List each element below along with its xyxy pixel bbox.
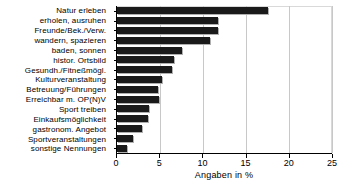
category-label-row: wandern, spazieren xyxy=(0,36,110,46)
bar-row xyxy=(117,6,332,16)
category-label-row: Sport treiben xyxy=(0,105,110,115)
bar xyxy=(117,76,162,83)
bar-row xyxy=(117,114,332,124)
plot-area xyxy=(116,6,332,154)
category-label: Kulturveranstaltung xyxy=(35,75,106,84)
y-axis-tick xyxy=(114,50,117,51)
bar xyxy=(117,145,127,152)
category-label: Einkaufsmöglichkeit xyxy=(33,115,106,124)
x-axis-tick-label: 25 xyxy=(327,158,337,168)
category-label-row: Betreuung/Führungen xyxy=(0,85,110,95)
category-label: Erreichbar m. OP(N)V xyxy=(26,95,106,104)
category-label-row: Kulturveranstaltung xyxy=(0,75,110,85)
category-label-row: baden, sonnen xyxy=(0,45,110,55)
category-label: Natur erleben xyxy=(56,6,106,15)
bar-row xyxy=(117,35,332,45)
bar xyxy=(117,56,174,63)
bar-row xyxy=(117,94,332,104)
bar-row xyxy=(117,133,332,143)
x-axis-tick-label: 20 xyxy=(284,158,294,168)
category-label: baden, sonnen xyxy=(52,46,106,55)
bar xyxy=(117,66,172,73)
bar xyxy=(117,27,218,34)
x-axis-tick-label: 15 xyxy=(241,158,251,168)
bar xyxy=(117,47,182,54)
category-label-column: Natur erlebenerholen, ausruhenFreunde/Be… xyxy=(0,6,110,154)
x-axis-tick-labels: 0510152025 xyxy=(116,158,332,170)
y-axis-tick xyxy=(114,11,117,12)
gridline xyxy=(332,6,333,153)
category-label-row: Freunde/Bek./Verw. xyxy=(0,26,110,36)
y-axis-tick xyxy=(114,79,117,80)
category-label: Sport treiben xyxy=(59,105,106,114)
y-axis-tick xyxy=(114,119,117,120)
category-label: Gesundh./Fitneßmögl. xyxy=(25,66,106,75)
category-label: Betreuung/Führungen xyxy=(26,85,106,94)
category-label-row: Natur erleben xyxy=(0,6,110,16)
bar xyxy=(117,37,210,44)
y-axis-tick xyxy=(114,109,117,110)
category-label-row: Erreichbar m. OP(N)V xyxy=(0,95,110,105)
y-axis-tick xyxy=(114,30,117,31)
category-label: Freunde/Bek./Verw. xyxy=(34,26,106,35)
y-axis-tick xyxy=(114,40,117,41)
y-axis-tick xyxy=(114,99,117,100)
category-label: histor. Ortsbild xyxy=(53,56,106,65)
y-axis-tick xyxy=(114,70,117,71)
y-axis-tick xyxy=(114,60,117,61)
category-label: wandern, spazieren xyxy=(34,36,106,45)
category-label-row: Gesundh./Fitneßmögl. xyxy=(0,65,110,75)
category-label-row: Einkaufsmöglichkeit xyxy=(0,114,110,124)
bar-row xyxy=(117,143,332,153)
x-axis-tick-label: 0 xyxy=(113,158,118,168)
bar xyxy=(117,125,142,132)
category-label-row: sonstige Nennungen xyxy=(0,144,110,154)
bar-row xyxy=(117,55,332,65)
x-axis-tick-label: 10 xyxy=(197,158,207,168)
bar xyxy=(117,86,158,93)
plot-inner xyxy=(117,6,332,153)
category-label: erholen, ausruhen xyxy=(40,16,106,25)
bar-row xyxy=(117,124,332,134)
bar-row xyxy=(117,45,332,55)
category-label-row: erholen, ausruhen xyxy=(0,16,110,26)
bar xyxy=(117,96,159,103)
category-label-row: gastronom. Angebot xyxy=(0,124,110,134)
category-label-row: Sportveranstaltungen xyxy=(0,134,110,144)
y-axis-tick xyxy=(114,128,117,129)
category-label: gastronom. Angebot xyxy=(33,125,106,134)
bar-row xyxy=(117,65,332,75)
bar-row xyxy=(117,16,332,26)
bar xyxy=(117,17,218,24)
category-label: Sportveranstaltungen xyxy=(28,135,106,144)
bar-row xyxy=(117,84,332,94)
bar xyxy=(117,115,148,122)
y-axis-tick xyxy=(114,138,117,139)
bar xyxy=(117,105,149,112)
category-label: sonstige Nennungen xyxy=(31,144,106,153)
y-axis-tick xyxy=(114,148,117,149)
bar-series xyxy=(117,6,332,153)
y-axis-tick xyxy=(114,21,117,22)
horizontal-bar-chart: Natur erlebenerholen, ausruhenFreunde/Be… xyxy=(0,0,339,186)
x-axis-title: Angaben in % xyxy=(116,170,332,180)
bar-row xyxy=(117,75,332,85)
bar xyxy=(117,7,268,14)
x-axis-tick-label: 5 xyxy=(157,158,162,168)
bar-row xyxy=(117,104,332,114)
y-axis-tick xyxy=(114,89,117,90)
bar xyxy=(117,135,133,142)
bar-row xyxy=(117,26,332,36)
category-label-row: histor. Ortsbild xyxy=(0,55,110,65)
